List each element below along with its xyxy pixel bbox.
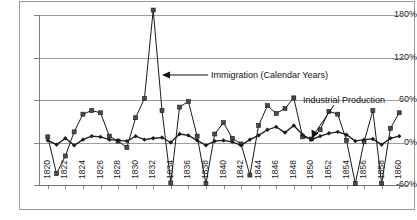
- data-point: [336, 112, 340, 116]
- data-point: [371, 109, 375, 113]
- data-point: [222, 121, 226, 125]
- immigration-industrial-production-chart: 180%120%60%0%-60% 1820182218241826182818…: [0, 0, 417, 220]
- data-point: [125, 145, 129, 149]
- data-point: [142, 97, 146, 101]
- data-point: [134, 116, 138, 120]
- data-point: [142, 137, 146, 141]
- data-point: [178, 105, 182, 109]
- series-layer: [0, 0, 417, 220]
- data-point: [397, 134, 401, 138]
- immigration-annotation: Immigration (Calendar Years): [211, 70, 328, 80]
- data-point: [90, 134, 94, 138]
- data-point: [55, 172, 59, 176]
- data-point: [63, 154, 67, 158]
- data-point: [336, 130, 340, 134]
- data-point: [318, 134, 322, 138]
- data-point: [274, 111, 278, 115]
- data-point: [283, 107, 287, 111]
- data-point: [345, 138, 349, 142]
- data-point: [90, 109, 94, 113]
- data-point: [195, 134, 199, 138]
- data-point: [380, 182, 384, 186]
- data-point: [388, 126, 392, 130]
- data-point: [72, 130, 76, 134]
- data-point: [248, 173, 252, 177]
- data-point: [213, 132, 217, 136]
- data-point: [98, 135, 102, 139]
- data-point: [353, 182, 357, 186]
- industrial-production-annotation: Industrial Production: [303, 95, 385, 105]
- data-point: [169, 181, 173, 185]
- data-point: [327, 131, 331, 135]
- data-point: [265, 104, 269, 108]
- data-point: [397, 111, 401, 115]
- data-point: [99, 111, 103, 115]
- data-point: [204, 182, 208, 186]
- data-point: [160, 109, 164, 113]
- series-industrial: [46, 123, 402, 147]
- data-point: [151, 136, 155, 140]
- data-point: [292, 96, 296, 100]
- data-point: [257, 124, 261, 128]
- data-point: [81, 112, 85, 116]
- data-point: [186, 99, 190, 103]
- data-point: [151, 8, 155, 12]
- data-point: [221, 138, 225, 142]
